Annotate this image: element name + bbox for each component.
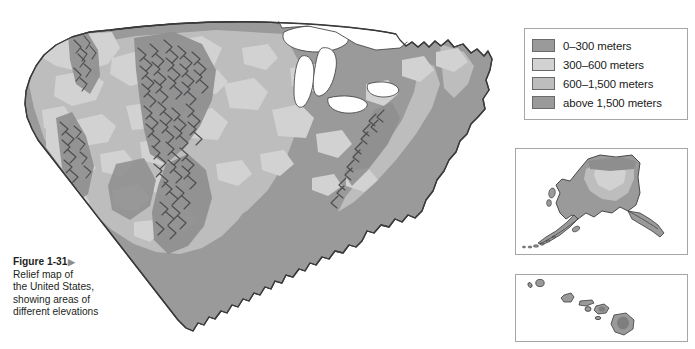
alaska-landmass [522,155,664,248]
legend-label-above-1500: above 1,500 meters [563,97,662,109]
caption-line-4: different elevations [13,306,148,319]
inset-map-hawaii [515,274,688,342]
legend-label-300-600: 300–600 meters [563,59,644,71]
legend-label-0-300: 0–300 meters [563,40,631,52]
hawaii-landmass [527,279,634,335]
figure-caption: Figure 1-31▶ Relief map of the United St… [13,256,148,319]
legend-item-300-600: 300–600 meters [532,55,679,74]
figure-number-line: Figure 1-31▶ [13,256,75,267]
legend-item-0-300: 0–300 meters [532,36,679,55]
legend-swatch-above-1500 [532,96,555,109]
caption-line-1: Relief map of [13,269,148,282]
caption-line-3: showing areas of [13,294,148,307]
figure-number: Figure 1-31 [13,256,67,267]
legend-label-600-1500: 600–1,500 meters [563,78,653,90]
legend-item-above-1500: above 1,500 meters [532,93,679,112]
legend-item-600-1500: 600–1,500 meters [532,74,679,93]
inset-map-alaska [515,148,688,255]
legend-swatch-600-1500 [532,77,555,90]
map-legend: 0–300 meters 300–600 meters 600–1,500 me… [524,28,688,120]
caption-line-2: the United States, [13,281,148,294]
legend-swatch-0-300 [532,39,555,52]
legend-swatch-300-600 [532,58,555,71]
caption-arrow-icon: ▶ [68,256,75,269]
